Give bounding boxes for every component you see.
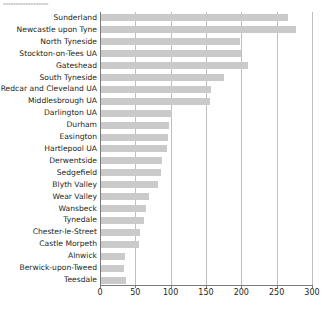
bar-row bbox=[100, 24, 312, 36]
category-label: Redcar and Cleveland UA bbox=[0, 85, 97, 93]
bar bbox=[100, 169, 161, 176]
bar bbox=[100, 157, 162, 164]
bar bbox=[100, 14, 288, 21]
category-label: Sedgefield bbox=[0, 169, 97, 177]
x-tick-mark-150 bbox=[206, 285, 207, 288]
x-tick-label-150: 150 bbox=[198, 288, 213, 298]
bar bbox=[100, 253, 125, 260]
category-label: Darlington UA bbox=[0, 109, 97, 117]
x-tick-label-50: 50 bbox=[130, 288, 140, 298]
bar-row bbox=[100, 131, 312, 143]
x-tick-mark-300 bbox=[312, 285, 313, 288]
bar-row bbox=[100, 167, 312, 179]
gridline-300 bbox=[312, 12, 313, 286]
bar bbox=[100, 265, 124, 272]
bar-row bbox=[100, 262, 312, 274]
x-tick-mark-100 bbox=[171, 285, 172, 288]
plot-area bbox=[100, 12, 312, 286]
category-label: Castle Morpeth bbox=[0, 240, 97, 248]
category-label: Derwentside bbox=[0, 157, 97, 165]
bar-chart: ▪▪▪▪▪▪▪▪▪▪▪▪▪▪▪▪▪▪ SunderlandNewcastle u… bbox=[0, 0, 329, 310]
x-tick-label-0: 0 bbox=[97, 288, 102, 298]
x-tick-label-100: 100 bbox=[163, 288, 178, 298]
bar bbox=[100, 205, 146, 212]
x-tick-label-300: 300 bbox=[304, 288, 319, 298]
x-tick-label-200: 200 bbox=[234, 288, 249, 298]
x-tick-label-250: 250 bbox=[269, 288, 284, 298]
bar-row bbox=[100, 48, 312, 60]
bar-row bbox=[100, 36, 312, 48]
category-label: Stockton-on-Tees UA bbox=[0, 50, 97, 58]
x-tick-mark-0 bbox=[100, 285, 101, 288]
bar bbox=[100, 122, 169, 129]
bar bbox=[100, 277, 126, 284]
bar-row bbox=[100, 215, 312, 227]
category-label: Durham bbox=[0, 121, 97, 129]
category-label: Newcastle upon Tyne bbox=[0, 26, 97, 34]
category-label: Hartlepool UA bbox=[0, 145, 97, 153]
bar-row bbox=[100, 119, 312, 131]
category-axis-labels: SunderlandNewcastle upon TyneNorth Tynes… bbox=[0, 12, 97, 286]
bar bbox=[100, 98, 210, 105]
bar bbox=[100, 145, 167, 152]
value-axis-line bbox=[100, 12, 101, 286]
bar-row bbox=[100, 179, 312, 191]
bar bbox=[100, 241, 139, 248]
bar bbox=[100, 217, 144, 224]
category-label: Berwick-upon-Tweed bbox=[0, 264, 97, 272]
category-label: Gateshead bbox=[0, 62, 97, 70]
x-tick-mark-50 bbox=[135, 285, 136, 288]
category-label: Tynedale bbox=[0, 216, 97, 224]
bar bbox=[100, 86, 211, 93]
bar bbox=[100, 193, 149, 200]
category-label: South Tyneside bbox=[0, 74, 97, 82]
category-label: Chester-le-Street bbox=[0, 228, 97, 236]
value-axis-tick-labels: 050100150200250300 bbox=[0, 288, 329, 302]
bar-rows bbox=[100, 12, 312, 286]
bar-row bbox=[100, 191, 312, 203]
bar-row bbox=[100, 250, 312, 262]
category-label: Teesdale bbox=[0, 276, 97, 284]
category-label: Middlesbrough UA bbox=[0, 97, 97, 105]
bar-row bbox=[100, 95, 312, 107]
x-tick-mark-200 bbox=[241, 285, 242, 288]
category-label: Wear Valley bbox=[0, 193, 97, 201]
category-label: Blyth Valley bbox=[0, 181, 97, 189]
bar-row bbox=[100, 107, 312, 119]
bar bbox=[100, 110, 172, 117]
bar-row bbox=[100, 12, 312, 24]
clipped-caption-fragment: ▪▪▪▪▪▪▪▪▪▪▪▪▪▪▪▪▪▪ bbox=[3, 1, 63, 6]
bar bbox=[100, 62, 248, 69]
category-label: North Tyneside bbox=[0, 38, 97, 46]
bar bbox=[100, 134, 168, 141]
bar-row bbox=[100, 155, 312, 167]
category-label: Alnwick bbox=[0, 252, 97, 260]
bar-row bbox=[100, 72, 312, 84]
bar-row bbox=[100, 83, 312, 95]
bar-row bbox=[100, 238, 312, 250]
bar-row bbox=[100, 143, 312, 155]
category-label: Wansbeck bbox=[0, 205, 97, 213]
x-tick-mark-250 bbox=[277, 285, 278, 288]
bar bbox=[100, 74, 224, 81]
bar bbox=[100, 26, 296, 33]
bar bbox=[100, 50, 241, 57]
bar-row bbox=[100, 226, 312, 238]
category-label: Sunderland bbox=[0, 14, 97, 22]
bar-row bbox=[100, 60, 312, 72]
bar bbox=[100, 229, 140, 236]
bar-row bbox=[100, 203, 312, 215]
bar bbox=[100, 181, 158, 188]
bar bbox=[100, 38, 240, 45]
category-label: Easington bbox=[0, 133, 97, 141]
